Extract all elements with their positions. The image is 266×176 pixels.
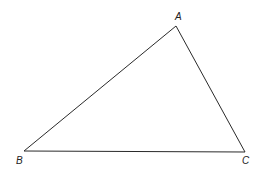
vertex-label-b: B (16, 155, 23, 166)
vertex-label-c: C (242, 155, 250, 166)
triangle-abc (24, 26, 245, 152)
vertex-label-a: A (174, 11, 182, 22)
triangle-diagram: A B C (0, 0, 266, 176)
